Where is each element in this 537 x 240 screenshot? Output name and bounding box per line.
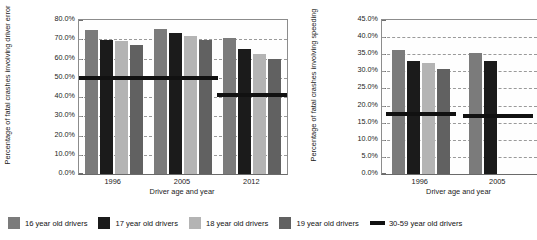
- bar-cluster: [148, 20, 217, 174]
- bar[interactable]: [268, 59, 281, 174]
- y-tick-label: 5.0%: [362, 152, 378, 159]
- y-tick-label: 15.0%: [358, 118, 378, 125]
- y-tick-label: 30.0%: [358, 67, 378, 74]
- y-tick-label: 10.0%: [358, 135, 378, 142]
- x-tick-label: 2005: [147, 177, 216, 186]
- chart-panel-driver-error: Percentage of fatal crashes involving dr…: [0, 0, 300, 200]
- y-tick-label: 80.0%: [55, 15, 75, 22]
- y-tick-label: 40.0%: [358, 33, 378, 40]
- reference-line-30-59: [79, 76, 149, 80]
- bar[interactable]: [199, 40, 212, 174]
- y-tick-label: 0.0%: [59, 169, 75, 176]
- plot-area-speeding: [381, 19, 537, 175]
- bar[interactable]: [115, 41, 128, 174]
- y-tick-label: 60.0%: [55, 54, 75, 61]
- x-tick-label: 1996: [381, 177, 459, 186]
- y-tick-label: 20.0%: [358, 101, 378, 108]
- legend-line-swatch-icon: [370, 221, 385, 225]
- x-tick-label: 1996: [78, 177, 147, 186]
- reference-line-30-59: [386, 112, 456, 116]
- y-axis-ticks-left: 0.0%10.0%20.0%30.0%40.0%50.0%60.0%70.0%8…: [33, 19, 75, 173]
- legend-item-label: 19 year old drivers: [296, 219, 358, 228]
- bar[interactable]: [238, 49, 251, 174]
- y-axis-ticks-right: 0.0%5.0%10.0%15.0%20.0%25.0%30.0%35.0%40…: [336, 19, 378, 173]
- legend-item[interactable]: 19 year old drivers: [279, 217, 358, 229]
- x-tick-label: 2012: [217, 177, 286, 186]
- y-tick-label: 25.0%: [358, 84, 378, 91]
- legend-color-swatch-icon: [189, 217, 201, 229]
- y-tick-label: 35.0%: [358, 50, 378, 57]
- legend-color-swatch-icon: [279, 217, 291, 229]
- bar[interactable]: [169, 33, 182, 174]
- x-axis-labels-left: 199620052012: [78, 177, 286, 186]
- reference-line-30-59: [463, 114, 533, 118]
- plot-area-driver-error: [78, 19, 288, 175]
- bar[interactable]: [253, 54, 266, 175]
- x-axis-title-right: Driver age and year: [381, 187, 536, 196]
- x-axis-title-left: Driver age and year: [78, 187, 286, 196]
- x-axis-labels-right: 19962005: [381, 177, 536, 186]
- bar-group: [79, 20, 148, 174]
- legend-item-label: 17 year old drivers: [115, 219, 177, 228]
- y-tick-label: 45.0%: [358, 15, 378, 22]
- bar[interactable]: [130, 45, 143, 174]
- bar-group: [460, 20, 537, 174]
- bar-cluster: [460, 20, 537, 174]
- legend-item[interactable]: 17 year old drivers: [98, 217, 177, 229]
- legend-item-label: 30-59 year old drivers: [389, 219, 462, 228]
- x-tick-label: 2005: [459, 177, 537, 186]
- legend-item-label: 18 year old drivers: [206, 219, 268, 228]
- reference-line-30-59: [217, 93, 287, 97]
- legend-item[interactable]: 18 year old drivers: [189, 217, 268, 229]
- legend-color-swatch-icon: [98, 217, 110, 229]
- bar[interactable]: [85, 30, 98, 174]
- y-tick-label: 40.0%: [55, 92, 75, 99]
- bar[interactable]: [100, 40, 113, 174]
- bar-group: [382, 20, 460, 174]
- y-tick-label: 70.0%: [55, 35, 75, 42]
- bar[interactable]: [407, 61, 420, 174]
- bar[interactable]: [154, 29, 167, 174]
- bar[interactable]: [422, 63, 435, 174]
- legend-color-swatch-icon: [8, 217, 20, 229]
- y-tick-label: 20.0%: [55, 131, 75, 138]
- bar-group: [218, 20, 287, 174]
- bar[interactable]: [184, 36, 197, 174]
- y-tick-label: 30.0%: [55, 112, 75, 119]
- y-tick-label: 50.0%: [55, 73, 75, 80]
- y-tick-label: 0.0%: [362, 169, 378, 176]
- bar[interactable]: [223, 38, 236, 174]
- bar-cluster: [382, 20, 460, 174]
- legend-item[interactable]: 30-59 year old drivers: [370, 219, 462, 228]
- legend-item-label: 16 year old drivers: [25, 219, 87, 228]
- bar-group: [148, 20, 217, 174]
- y-tick-label: 10.0%: [55, 150, 75, 157]
- reference-line-30-59: [148, 76, 218, 80]
- chart-panel-speeding: Percentage of fatal crashes involving sp…: [288, 0, 536, 200]
- figure-legend: 16 year old drivers17 year old drivers18…: [0, 211, 519, 235]
- bar-groups-right: [382, 20, 537, 174]
- bar[interactable]: [437, 69, 450, 174]
- legend-item[interactable]: 16 year old drivers: [8, 217, 87, 229]
- bar-groups-left: [79, 20, 287, 174]
- bar-cluster: [79, 20, 148, 174]
